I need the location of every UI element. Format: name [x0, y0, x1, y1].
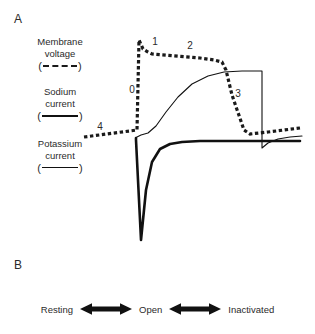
phase-label-2: 2 — [187, 40, 193, 51]
phase-label-3: 3 — [235, 88, 241, 99]
double-headed-arrow-icon-1 — [80, 302, 132, 316]
phase-label-0: 0 — [129, 84, 135, 95]
state-label-inactivated: Inactivated — [228, 304, 274, 315]
trace-membrane-voltage — [84, 40, 300, 137]
trace-sodium-current — [136, 138, 300, 240]
double-headed-arrow-icon-2 — [169, 302, 221, 316]
state-label-open: Open — [139, 304, 162, 315]
phase-label-4: 4 — [97, 121, 103, 132]
action-potential-chart: 0 1 2 3 4 — [0, 0, 315, 270]
panel-b-label: B — [14, 258, 22, 272]
state-label-resting: Resting — [41, 304, 73, 315]
trace-potassium-current — [136, 71, 302, 148]
channel-state-diagram: Resting Open Inactivated — [0, 292, 315, 326]
phase-label-1: 1 — [152, 36, 158, 47]
